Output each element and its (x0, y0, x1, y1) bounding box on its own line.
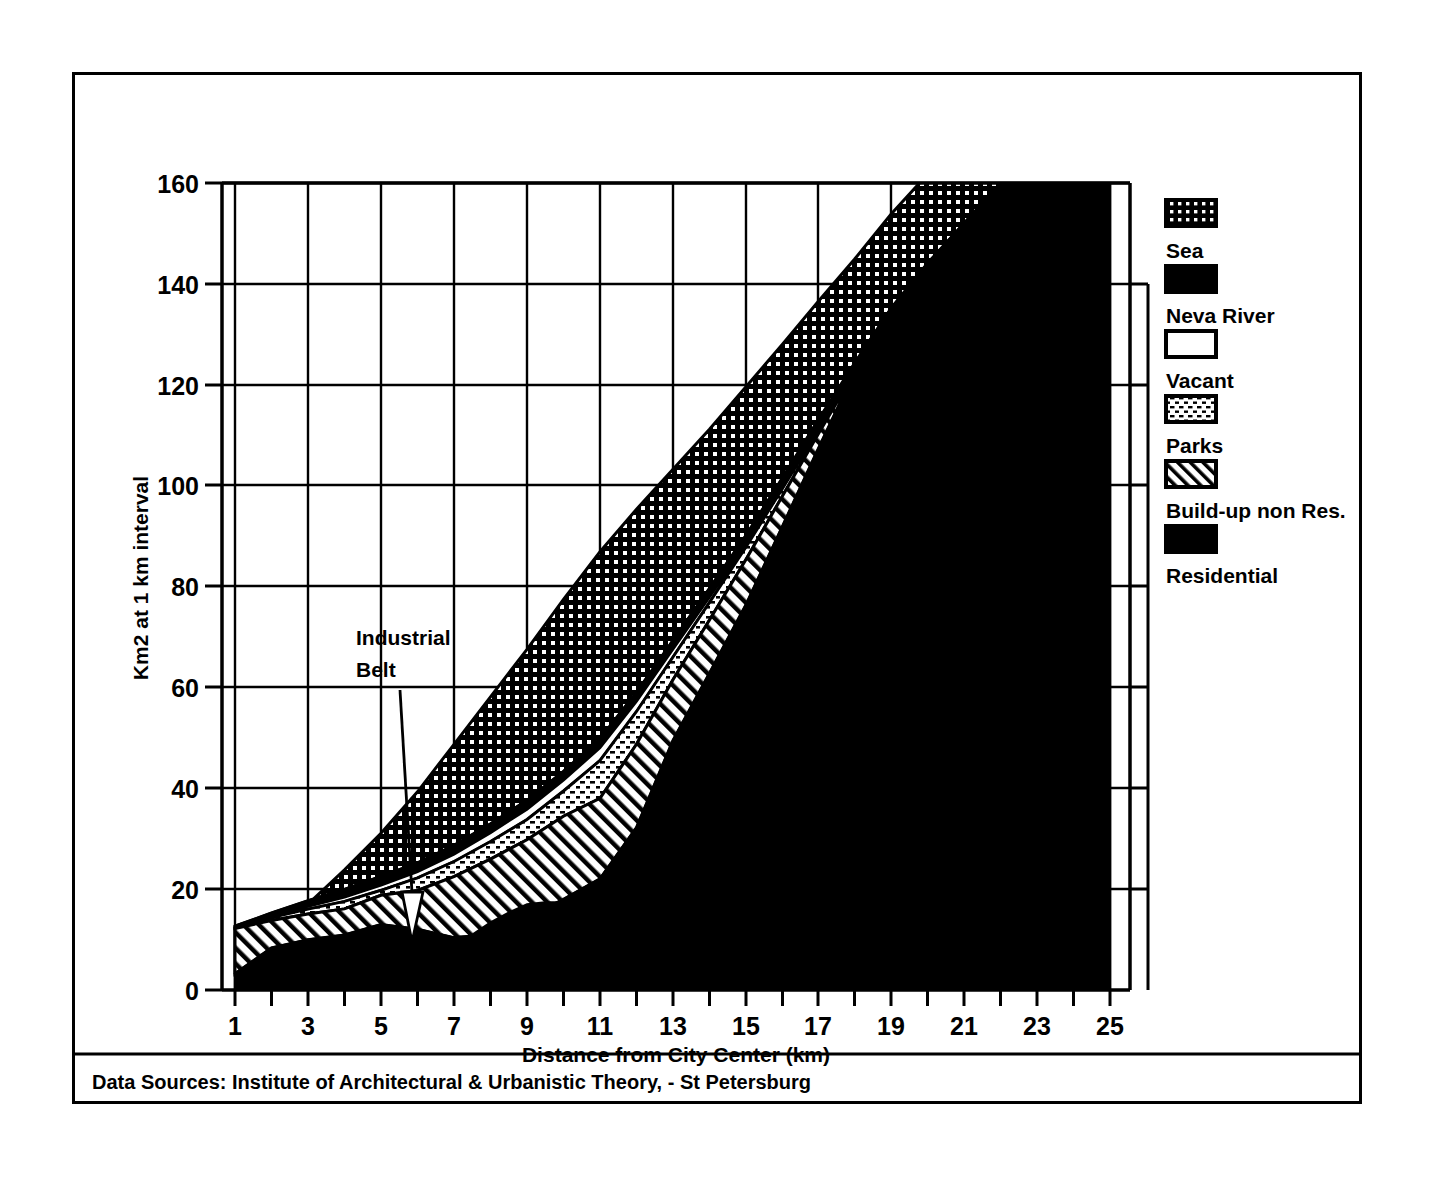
y-tick-label: 120 (157, 372, 199, 400)
x-tick-label: 11 (587, 1012, 614, 1040)
legend-label-sea: Sea (1166, 239, 1204, 262)
x-tick-label: 9 (520, 1012, 534, 1040)
y-axis-title: Km2 at 1 km interval (129, 476, 152, 680)
y-axis-ticks (205, 183, 222, 990)
legend-swatch-parks (1166, 396, 1216, 422)
legend-swatch-sea (1166, 200, 1216, 226)
y-tick-label: 20 (171, 876, 199, 904)
legend-swatch-neva-river (1166, 266, 1216, 292)
legend-label-build-up-non-res: Build-up non Res. (1166, 499, 1346, 522)
x-tick-label: 17 (804, 1012, 832, 1040)
annotation-line-2: Belt (356, 658, 396, 681)
x-tick-label: 25 (1096, 1012, 1124, 1040)
x-axis-tick-labels: 1 3 5 7 9 11 13 15 17 19 21 23 25 (228, 1012, 1124, 1040)
y-tick-label: 160 (157, 170, 199, 198)
legend-swatch-vacant (1166, 331, 1216, 357)
y-tick-label: 140 (157, 271, 199, 299)
legend-label-residential: Residential (1166, 564, 1278, 587)
source-note: Data Sources: Institute of Architectural… (92, 1071, 811, 1093)
y-tick-label: 0 (185, 977, 199, 1005)
x-tick-label: 7 (447, 1012, 461, 1040)
x-tick-label: 23 (1023, 1012, 1051, 1040)
y-tick-label: 100 (157, 472, 199, 500)
x-tick-label: 5 (374, 1012, 388, 1040)
legend-swatch-residential (1166, 526, 1216, 552)
annotation-line-1: Industrial (356, 626, 451, 649)
chart-legend: Sea Neva River Vacant Parks Build-up non… (1166, 200, 1346, 587)
stacked-series-group (235, 0, 1110, 990)
x-tick-label: 3 (301, 1012, 315, 1040)
x-axis-ticks (235, 990, 1110, 1006)
y-tick-label: 80 (171, 573, 199, 601)
y-tick-label: 40 (171, 775, 199, 803)
x-tick-label: 15 (732, 1012, 760, 1040)
x-tick-label: 21 (950, 1012, 978, 1040)
stacked-area-chart: 160 140 120 100 80 60 40 20 0 1 3 5 7 9 … (0, 0, 1453, 1180)
y-axis-tick-labels: 160 140 120 100 80 60 40 20 0 (157, 170, 199, 1005)
y-tick-label: 60 (171, 674, 199, 702)
x-tick-label: 1 (228, 1012, 242, 1040)
legend-swatch-build-up-non-res (1166, 461, 1216, 487)
x-tick-label: 13 (659, 1012, 687, 1040)
right-axis-ticks (1130, 284, 1148, 990)
legend-label-neva-river: Neva River (1166, 304, 1275, 327)
legend-label-parks: Parks (1166, 434, 1223, 457)
legend-label-vacant: Vacant (1166, 369, 1234, 392)
x-tick-label: 19 (877, 1012, 905, 1040)
